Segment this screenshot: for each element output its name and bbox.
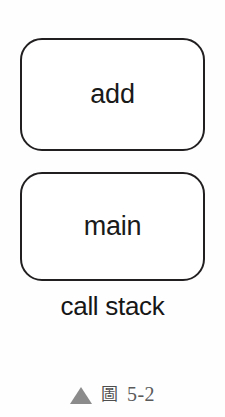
triangle-up-icon [70, 387, 92, 404]
figure-canvas: add main call stack 圖 5-2 [0, 0, 225, 417]
frame-label-add: add [90, 81, 134, 108]
figure-caption-number: 5-2 [127, 384, 155, 404]
call-stack-frame-main: main [20, 172, 205, 281]
frame-label-main: main [84, 213, 142, 240]
figure-caption: 圖 5-2 [0, 384, 225, 404]
call-stack-title: call stack [0, 292, 225, 322]
call-stack-frame-add: add [20, 38, 205, 151]
figure-caption-prefix: 圖 [101, 386, 118, 403]
